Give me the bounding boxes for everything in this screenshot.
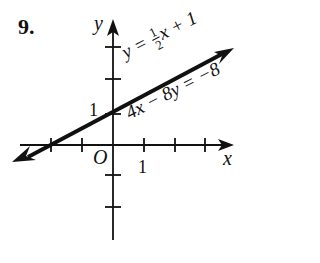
y-axis-label: y	[94, 12, 103, 35]
x-tick-label: 1	[138, 157, 147, 178]
origin-label: O	[93, 146, 107, 169]
y-tick-label: 1	[89, 100, 98, 121]
x-axis-label: x	[223, 147, 232, 170]
y-axis	[105, 19, 121, 240]
